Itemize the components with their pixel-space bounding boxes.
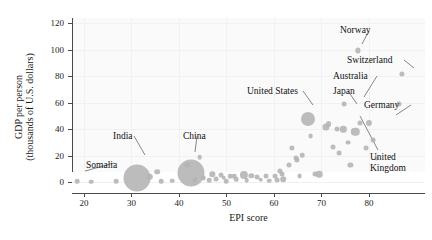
x-tick-mark (131, 193, 132, 197)
data-point-united-states (301, 112, 315, 126)
x-tick-mark (369, 193, 370, 197)
y-tick-label: 60 (55, 98, 64, 108)
annotation-switzerland: Switzerland (347, 55, 392, 66)
data-point (308, 134, 313, 139)
y-tick-label: 20 (55, 151, 64, 161)
annotation-label: Australia (333, 71, 368, 82)
data-point-somalia (75, 179, 80, 184)
x-tick-label: 60 (269, 198, 278, 208)
data-point (346, 140, 351, 145)
data-point (245, 178, 250, 183)
x-tick-label: 30 (127, 198, 136, 208)
data-point (267, 178, 272, 183)
annotation-australia: Australia (333, 71, 368, 82)
data-point (207, 178, 212, 183)
data-point-australia (358, 121, 363, 126)
annotation-label: Germany (364, 100, 399, 111)
annotation-label: China (183, 131, 206, 142)
leader-line-switzerland (404, 60, 414, 68)
x-tick-mark (84, 193, 85, 197)
y-tick-mark (68, 76, 72, 77)
y-tick-label: 40 (55, 124, 64, 134)
data-point (159, 179, 164, 184)
data-point (170, 179, 175, 184)
data-point (258, 177, 263, 182)
data-point (224, 179, 229, 184)
x-axis-label: EPI score (72, 212, 425, 223)
annotation-label: United (370, 152, 406, 163)
data-point (234, 177, 239, 182)
data-point (334, 126, 339, 131)
y-axis-label-line1: GDP per person (13, 37, 24, 177)
x-tick-label: 50 (222, 198, 231, 208)
y-tick-mark (68, 156, 72, 157)
annotation-india: India (113, 131, 133, 142)
data-point (154, 169, 160, 175)
annotation-label: Norway (340, 25, 371, 36)
data-point (370, 138, 375, 143)
data-point (337, 151, 342, 156)
leader-line-india (134, 136, 145, 155)
y-tick-label: 100 (51, 45, 65, 55)
x-tick-label: 80 (364, 198, 373, 208)
x-tick-label: 70 (317, 198, 326, 208)
scatter-plot-figure: 20304050607080 020406080100120 SomaliaIn… (0, 0, 432, 240)
annotation-norway: Norway (340, 25, 371, 36)
data-point (326, 121, 332, 127)
annotation-label: Somalia (86, 160, 117, 171)
data-point (89, 179, 94, 184)
x-tick-mark (179, 193, 180, 197)
annotation-china: China (183, 131, 206, 142)
x-tick-mark (226, 193, 227, 197)
y-tick-mark (68, 23, 72, 24)
leader-line-united-states (303, 91, 313, 105)
data-point (281, 176, 287, 182)
y-tick-label: 120 (51, 18, 65, 28)
y-axis-label-line2: (thousands of U.S. dollars) (24, 37, 35, 177)
data-point (300, 153, 305, 158)
data-point (316, 171, 323, 178)
x-tick-mark (321, 193, 322, 197)
x-tick-label: 20 (79, 198, 88, 208)
data-point (198, 155, 203, 160)
data-point (114, 179, 119, 184)
annotation-united-kingdom: UnitedKingdom (370, 152, 406, 173)
y-tick-label: 0 (60, 177, 65, 187)
y-tick-mark (68, 129, 72, 130)
annotation-somalia: Somalia (86, 160, 117, 171)
data-point (297, 174, 302, 179)
y-tick-label: 80 (55, 71, 64, 81)
data-point (330, 144, 335, 149)
annotation-label: Japan (333, 86, 355, 97)
y-axis-line (72, 18, 73, 172)
x-tick-mark (274, 193, 275, 197)
data-point-china (178, 160, 205, 187)
annotation-label: India (113, 131, 133, 142)
y-tick-mark (68, 182, 72, 183)
y-tick-mark (68, 50, 72, 51)
x-axis-line (72, 193, 425, 194)
data-point (364, 145, 369, 150)
data-point (201, 175, 206, 180)
data-point (274, 177, 279, 182)
annotation-japan: Japan (333, 86, 355, 97)
data-point (342, 102, 347, 107)
y-tick-mark (68, 103, 72, 104)
annotation-germany: Germany (364, 100, 399, 111)
annotation-label: United States (247, 86, 298, 97)
annotation-label: Switzerland (347, 55, 392, 66)
annotation-label-line2: Kingdom (370, 163, 406, 174)
y-axis-label: GDP per person (thousands of U.S. dollar… (13, 37, 35, 177)
annotation-united-states: United States (247, 86, 298, 97)
data-point (214, 177, 219, 182)
x-tick-label: 40 (174, 198, 183, 208)
data-point (287, 163, 292, 168)
